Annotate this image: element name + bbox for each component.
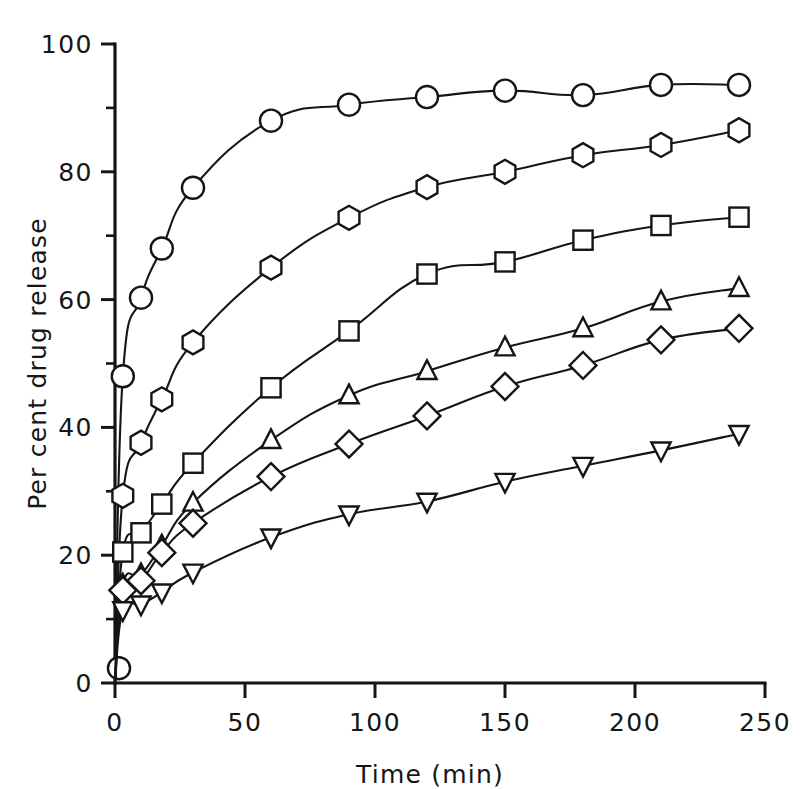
marker-triangle-up [261,429,280,448]
x-tick-label: 0 [106,708,123,737]
marker-square [113,542,132,561]
x-tick-label: 250 [739,708,791,737]
marker-triangle-down [131,597,150,616]
chart-figure: 020406080100050100150200250Time (min)Per… [0,0,810,789]
marker-diamond [492,373,519,400]
drug-release-plot: 020406080100050100150200250Time (min)Per… [0,0,810,789]
marker-hexagon [112,484,133,508]
marker-diamond [258,463,285,490]
series-line-triangle-down [115,434,739,683]
marker-square [183,454,202,473]
marker-hexagon [183,330,204,354]
marker-diamond [336,431,363,458]
marker-square [651,216,670,235]
y-axis-title: Per cent drug release [23,217,52,510]
marker-hexagon [573,143,594,167]
marker-triangle-up [183,492,202,511]
marker-circle [151,237,173,259]
marker-square [261,378,280,397]
series-triangle-down [113,426,748,683]
marker-triangle-up [729,277,748,296]
marker-hexagon [261,256,282,280]
marker-hexagon [131,431,152,455]
marker-hexagon [495,160,516,184]
series-group [108,74,752,683]
marker-hexagon [151,387,172,411]
marker-square [729,208,748,227]
marker-circle [112,365,134,387]
y-tick-label: 0 [76,669,93,698]
marker-hexagon [339,206,360,230]
marker-circle [728,74,750,96]
marker-hexagon [651,133,672,157]
x-tick-label: 50 [228,708,263,737]
series-line-square [115,217,739,683]
marker-square [152,494,171,513]
marker-circle [108,657,130,679]
series-hexagon [112,118,749,683]
marker-circle [130,287,152,309]
marker-circle [416,86,438,108]
series-line-triangle-up [115,288,739,683]
marker-circle [182,177,204,199]
marker-diamond [570,352,597,379]
y-tick-label: 80 [58,158,93,187]
marker-triangle-down [183,565,202,584]
marker-diamond [414,402,441,429]
y-tick-label: 100 [41,30,93,59]
marker-diamond [726,315,753,342]
x-tick-label: 200 [609,708,661,737]
y-tick-label: 60 [58,286,93,315]
marker-hexagon [417,175,438,199]
x-tick-label: 100 [349,708,401,737]
marker-triangle-up [339,385,358,404]
axis-labels-group: 020406080100050100150200250Time (min)Per… [23,30,791,789]
marker-square [131,523,150,542]
marker-diamond [648,326,675,353]
x-axis-title: Time (min) [355,760,504,789]
marker-circle [494,80,516,102]
y-tick-label: 20 [58,541,93,570]
marker-circle [338,94,360,116]
marker-circle [650,74,672,96]
marker-triangle-down [152,584,171,603]
y-tick-label: 40 [58,413,93,442]
marker-square [495,252,514,271]
x-tick-label: 150 [479,708,531,737]
marker-circle [260,110,282,132]
marker-square [417,264,436,283]
marker-diamond [148,539,175,566]
marker-square [573,231,592,250]
marker-circle [572,84,594,106]
marker-square [339,321,358,340]
marker-hexagon [729,118,750,142]
